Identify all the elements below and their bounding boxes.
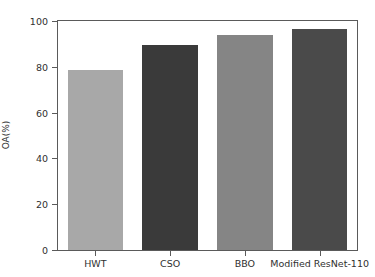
x-tick-label: Modified ResNet-110: [270, 258, 369, 269]
x-tick-mark: [320, 251, 321, 256]
y-tick-label: 60: [22, 107, 48, 118]
y-tick-label: 20: [22, 199, 48, 210]
x-tick-label: BBO: [235, 258, 255, 269]
x-tick-mark: [170, 251, 171, 256]
bar-modified-resnet-110: [292, 29, 348, 250]
bar-hwt: [68, 70, 124, 250]
bars-layer: [58, 21, 357, 250]
x-tick-mark: [245, 251, 246, 256]
y-tick-label: 0: [22, 245, 48, 256]
bar-bbo: [217, 35, 273, 250]
y-tick-label: 80: [22, 61, 48, 72]
x-tick-label: CSO: [160, 258, 180, 269]
bar-chart-figure: OA(%) 020406080100 HWTCSOBBOModified Res…: [0, 0, 375, 277]
x-tick-label: HWT: [84, 258, 106, 269]
y-tick-label: 100: [22, 16, 48, 27]
y-tick-label: 40: [22, 153, 48, 164]
x-tick-mark: [95, 251, 96, 256]
bar-cso: [142, 45, 198, 250]
y-axis-label: OA(%): [1, 121, 11, 150]
